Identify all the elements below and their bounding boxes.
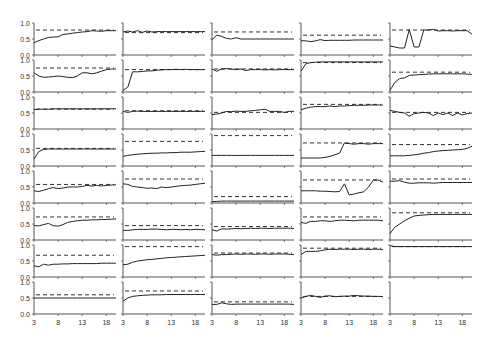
panel-r0-c1 — [121, 23, 205, 57]
panel-r6-c3 — [299, 245, 383, 279]
panel-r4-c3 — [299, 171, 383, 205]
series-line — [390, 214, 472, 233]
panel-r4-c0: 0.00.51.0 — [20, 168, 116, 207]
panel-r3-c4 — [388, 134, 472, 168]
panel-r1-c1 — [121, 60, 205, 94]
y-tick-label: 0.5 — [20, 36, 30, 43]
series-line — [123, 255, 205, 265]
y-tick-label: 0.5 — [20, 147, 30, 154]
series-line — [34, 185, 116, 192]
panel-r6-c2 — [210, 245, 294, 279]
y-tick-label: 1.0 — [20, 20, 30, 27]
y-tick-label: 1.0 — [20, 279, 30, 286]
series-line — [212, 228, 294, 231]
panel-r2-c4 — [388, 97, 472, 131]
y-tick-label: 0.0 — [20, 311, 30, 318]
y-tick-label: 0.5 — [20, 73, 30, 80]
panel-r2-c2 — [210, 97, 294, 131]
series-line — [123, 31, 205, 33]
series-line — [301, 143, 383, 158]
panel-r1-c0: 0.00.51.0 — [20, 57, 116, 96]
x-tick-label: 8 — [145, 319, 149, 326]
panel-r2-c0: 0.00.51.0 — [20, 94, 116, 133]
series-line — [390, 246, 472, 247]
series-line — [301, 62, 383, 71]
panel-r3-c2 — [210, 134, 294, 168]
x-tick-label: 8 — [234, 319, 238, 326]
series-line — [212, 201, 294, 202]
series-line — [390, 74, 472, 91]
x-tick-label: 18 — [369, 319, 377, 326]
series-line — [34, 149, 116, 159]
panel-r7-c1: 381318 — [121, 282, 205, 326]
y-tick-label: 0.5 — [20, 184, 30, 191]
x-tick-label: 3 — [299, 319, 303, 326]
series-line — [390, 146, 472, 156]
panel-r2-c1 — [121, 97, 205, 131]
panel-r3-c3 — [299, 134, 383, 168]
y-tick-label: 0.5 — [20, 221, 30, 228]
x-tick-label: 8 — [56, 319, 60, 326]
series-line — [212, 35, 294, 39]
series-line — [390, 110, 472, 116]
x-tick-label: 13 — [256, 319, 264, 326]
y-tick-label: 1.0 — [20, 57, 30, 64]
x-tick-label: 18 — [458, 319, 466, 326]
panel-r5-c2 — [210, 208, 294, 242]
y-tick-label: 1.0 — [20, 205, 30, 212]
panel-r1-c2 — [210, 60, 294, 94]
series-line — [212, 254, 294, 255]
y-tick-label: 0.5 — [20, 258, 30, 265]
y-tick-label: 0.5 — [20, 295, 30, 302]
series-line — [123, 183, 205, 188]
panel-r4-c2 — [210, 171, 294, 205]
y-tick-label: 0.5 — [20, 110, 30, 117]
panel-r0-c3 — [299, 23, 383, 57]
series-line — [123, 111, 205, 112]
x-tick-label: 13 — [434, 319, 442, 326]
panel-r7-c3: 381318 — [299, 282, 383, 326]
panel-r3-c1 — [121, 134, 205, 168]
panel-r1-c3 — [299, 60, 383, 94]
x-tick-label: 18 — [191, 319, 199, 326]
series-line — [34, 69, 116, 78]
x-tick-label: 3 — [210, 319, 214, 326]
small-multiples-chart-grid: 0.00.51.00.00.51.00.00.51.00.00.51.00.00… — [0, 0, 489, 342]
series-line — [301, 105, 383, 110]
panel-r5-c0: 0.00.51.0 — [20, 205, 116, 244]
series-line — [301, 220, 383, 223]
x-tick-label: 3 — [388, 319, 392, 326]
panel-r0-c0: 0.00.51.0 — [20, 20, 116, 59]
panel-r6-c4 — [388, 245, 472, 279]
series-line — [123, 229, 205, 230]
panel-r6-c1 — [121, 245, 205, 279]
panel-r7-c4: 381318 — [388, 282, 472, 326]
series-line — [301, 180, 383, 195]
y-tick-label: 1.0 — [20, 94, 30, 101]
y-tick-label: 1.0 — [20, 242, 30, 249]
x-tick-label: 8 — [323, 319, 327, 326]
series-line — [123, 295, 205, 302]
x-tick-label: 18 — [280, 319, 288, 326]
panel-r4-c1 — [121, 171, 205, 205]
panel-r7-c0: 0.00.51.0381318 — [20, 279, 116, 327]
x-tick-label: 13 — [345, 319, 353, 326]
panel-r3-c0: 0.00.51.0 — [20, 131, 116, 170]
series-line — [390, 181, 472, 184]
x-tick-label: 3 — [121, 319, 125, 326]
series-line — [34, 263, 116, 267]
panel-r1-c4 — [388, 60, 472, 94]
y-tick-label: 1.0 — [20, 168, 30, 175]
panel-r7-c2: 381318 — [210, 282, 294, 326]
x-tick-label: 8 — [412, 319, 416, 326]
panel-r0-c2 — [210, 23, 294, 57]
x-tick-label: 18 — [102, 319, 110, 326]
series-line — [34, 219, 116, 226]
y-tick-label: 1.0 — [20, 131, 30, 138]
panel-r0-c4 — [388, 23, 472, 57]
chart-svg: 0.00.51.00.00.51.00.00.51.00.00.51.00.00… — [0, 0, 489, 342]
panel-r2-c3 — [299, 97, 383, 131]
series-line — [301, 40, 383, 42]
panel-r5-c3 — [299, 208, 383, 242]
panel-r4-c4 — [388, 171, 472, 205]
